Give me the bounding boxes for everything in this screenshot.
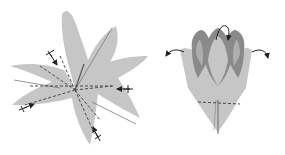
star-base-figure [10, 11, 148, 145]
curl-arrow-right [252, 50, 268, 58]
fold-arrow-left [19, 104, 34, 112]
fold-arrow-top-left [46, 50, 57, 65]
fold-arrow-bottom [93, 127, 101, 141]
diagram-canvas [0, 0, 285, 155]
flower-figure [166, 26, 268, 134]
diagram-svg [0, 0, 285, 155]
